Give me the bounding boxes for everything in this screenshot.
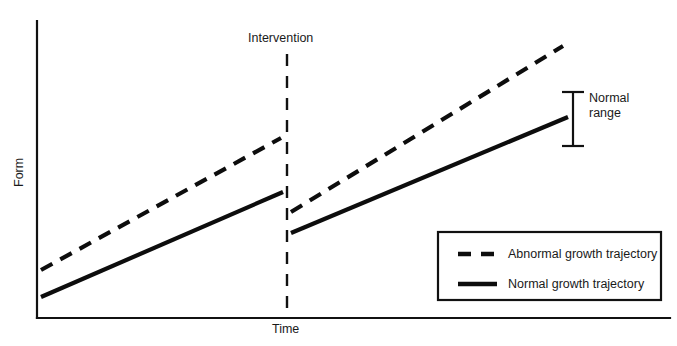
- legend-item-label-abnormal: Abnormal growth trajectory: [508, 247, 657, 261]
- legend-item-label-normal: Normal growth trajectory: [508, 277, 644, 291]
- intervention-label: Intervention: [248, 31, 313, 46]
- abnormal-trajectory-pre: [41, 138, 281, 270]
- y-axis-label: Form: [12, 150, 27, 194]
- normal-trajectory-post: [291, 117, 568, 233]
- normal-range-label: Normal range: [589, 91, 659, 121]
- abnormal-trajectory-post: [291, 46, 563, 212]
- x-axis-label: Time: [272, 322, 299, 337]
- growth-trajectory-figure: Intervention Time Form Normal range Abno…: [0, 0, 677, 346]
- normal-trajectory-pre: [41, 192, 283, 297]
- chart-canvas: [0, 0, 677, 346]
